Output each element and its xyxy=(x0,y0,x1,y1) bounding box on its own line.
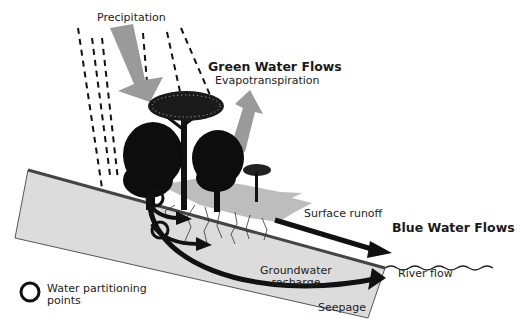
evapotranspiration-label: Evapotranspiration xyxy=(215,75,320,87)
legend-partitioning-icon xyxy=(21,283,39,301)
water-flow-diagram: Precipitation Green Water Flows Evapotra… xyxy=(0,0,523,329)
precipitation-arrow xyxy=(110,24,163,102)
river-flow-label: River flow xyxy=(398,268,453,280)
surface-runoff-label: Surface runoff xyxy=(304,208,382,220)
green-water-flows-title: Green Water Flows xyxy=(208,60,342,74)
precipitation-label: Precipitation xyxy=(97,12,166,24)
groundwater-recharge-label: Groundwater recharge xyxy=(256,265,336,289)
legend-label: Water partitioning points xyxy=(47,283,147,307)
blue-water-flows-title: Blue Water Flows xyxy=(392,221,515,235)
seepage-label: Seepage xyxy=(318,302,366,314)
large-tree xyxy=(123,122,183,210)
